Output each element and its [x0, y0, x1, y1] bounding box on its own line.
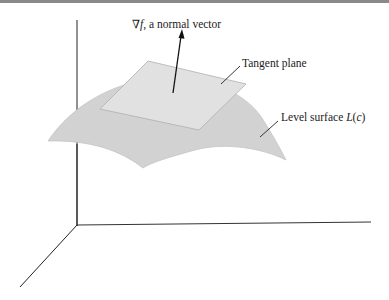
gradient-label: ∇f, a normal vector: [132, 17, 221, 31]
level-surface-label: Level surface L(c): [281, 111, 365, 123]
top-rule: [0, 0, 389, 3]
paren-close: ): [362, 111, 366, 123]
level-surface-label-text: Level surface: [281, 111, 346, 123]
tangent-plane-label: Tangent plane: [242, 57, 307, 69]
nabla-symbol: ∇: [132, 18, 140, 30]
x-axis: [20, 225, 77, 287]
y-axis: [77, 222, 371, 225]
gradient-label-text: , a normal vector: [143, 18, 221, 30]
diagram-graphics: [0, 0, 389, 300]
level-surface-diagram: ∇f, a normal vector Tangent plane Level …: [0, 0, 389, 300]
